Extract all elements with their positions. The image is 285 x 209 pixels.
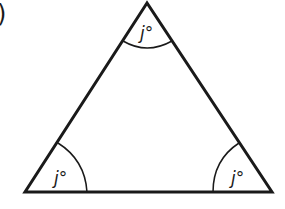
triangle-diagram: j° j° j° [0, 0, 285, 209]
bottom-right-angle-label: j° [229, 168, 244, 188]
bottom-left-angle-label: j° [52, 168, 67, 188]
top-angle-label: j° [138, 23, 153, 43]
